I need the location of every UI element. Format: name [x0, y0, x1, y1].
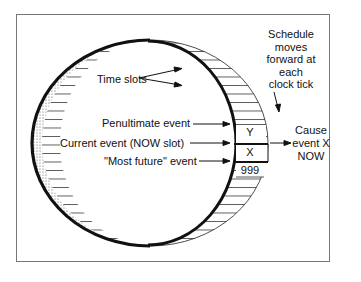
penultimate-event-label: Penultimate event — [102, 117, 190, 129]
cause-line-2: event X — [288, 137, 334, 150]
slot-999: 999 — [238, 164, 262, 176]
cause-line-1: Cause — [288, 124, 334, 137]
most-future-event-label: "Most future" event — [104, 155, 197, 167]
current-event-label: Current event (NOW slot) — [60, 137, 184, 149]
schedule-note: Schedule moves forward at each clock tic… — [256, 28, 326, 91]
schedule-line-5: clock tick — [256, 78, 326, 91]
cause-note: Cause event X NOW — [288, 124, 334, 163]
cause-line-3: NOW — [288, 150, 334, 163]
schedule-line-3: forward at — [256, 53, 326, 66]
schedule-line-2: moves — [256, 41, 326, 54]
slot-y: Y — [243, 126, 257, 138]
slot-x: X — [243, 146, 257, 158]
schedule-line-1: Schedule — [256, 28, 326, 41]
time-slots-label: Time slots — [97, 73, 147, 85]
schedule-line-4: each — [256, 66, 326, 79]
